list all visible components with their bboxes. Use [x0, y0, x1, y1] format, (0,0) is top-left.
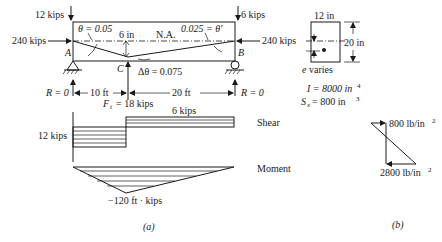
svg-text:4: 4 — [357, 82, 361, 90]
svg-text:2: 2 — [432, 117, 436, 125]
figure-a-label: (a) — [143, 221, 155, 233]
svg-text:2: 2 — [428, 166, 432, 174]
point-c-label: C — [117, 63, 124, 74]
eccentricity-label: 6 in — [119, 29, 134, 40]
moment-of-inertia-label: I = 8000 in — [306, 83, 352, 94]
moment-min-value: −120 ft · kips — [108, 195, 162, 206]
svg-text:3: 3 — [356, 95, 360, 103]
stress-distribution — [371, 123, 416, 164]
left-vertical-load-label: 12 kips — [35, 9, 64, 20]
shear-title: Shear — [257, 117, 280, 128]
left-axial-load-label: 240 kips — [12, 35, 46, 46]
section-width-label: 12 in — [314, 10, 334, 21]
right-axial-load-label: 240 kips — [262, 35, 296, 46]
moment-diagram — [73, 167, 234, 193]
tendon-profile — [73, 41, 235, 57]
beam-elevation — [48, 6, 260, 100]
support-b-label: B — [238, 47, 244, 58]
tendon-force-value: = 18 kips — [116, 98, 153, 109]
section-height-label: 20 in — [344, 37, 364, 48]
svg-text:x: x — [306, 101, 311, 109]
theta-right-arrow-icon — [205, 33, 208, 40]
support-a-label: A — [64, 47, 72, 58]
roller-support-icon — [225, 61, 244, 74]
prestressed-beam-diagram: 12 kips 6 kips 240 kips 240 kips A B C θ… — [0, 0, 442, 242]
tendon-dot-icon — [322, 48, 326, 52]
shear-right-value: 6 kips — [172, 105, 196, 116]
theta-left-label: θ = 0.05 — [78, 23, 112, 34]
delta-theta-label: Δθ = 0.075 — [138, 66, 182, 77]
shear-left-value: 12 kips — [38, 130, 67, 141]
pin-support-icon — [63, 61, 82, 74]
e-varies-label: varies — [309, 64, 333, 75]
moment-title: Moment — [257, 163, 291, 174]
stress-top-label: 800 lb/in — [389, 118, 425, 129]
neutral-axis-label: N.A. — [156, 29, 175, 40]
reaction-right-label: R = 0 — [240, 87, 264, 98]
stress-bottom-label: 2800 lb/in — [380, 167, 421, 178]
section-outline — [311, 22, 340, 62]
reaction-left-label: R = 0 — [45, 87, 69, 98]
e-symbol: e — [302, 64, 307, 75]
span-left-label: 10 ft — [90, 87, 109, 98]
right-vertical-load-label: 6 kips — [241, 9, 265, 20]
section-modulus-value: = 800 in — [312, 96, 345, 107]
delta-theta-arrow-icon — [138, 59, 150, 60]
svg-text:t: t — [110, 103, 113, 111]
theta-right-label: 0.025 = θ′ — [181, 23, 223, 34]
tendon-force-label: F — [102, 98, 110, 109]
figure-b-label: (b) — [392, 219, 404, 231]
span-right-label: 20 ft — [172, 87, 191, 98]
shear-diagram — [73, 112, 234, 162]
section-modulus-label: S — [301, 96, 306, 107]
